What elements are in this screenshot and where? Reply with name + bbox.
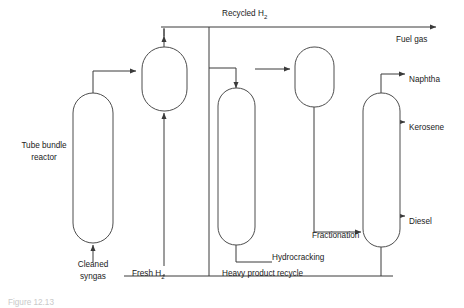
label-recycled-h2: Recycled H2 [222,9,268,19]
pfd-canvas: Tube bundle reactor Cleaned syngas Fresh… [0,0,464,308]
label-tube-bundle-reactor-line2: reactor [31,153,57,162]
label-cleaned-syngas-line2: syngas [80,272,106,281]
hydrocracking-vessel-shell[interactable] [218,88,255,245]
label-fractionation: Fractionation [312,231,360,240]
process-flow-diagram: Tube bundle reactor Cleaned syngas Fresh… [0,0,464,308]
upper-separator-vessel-shell[interactable] [295,47,334,107]
label-tube-bundle-reactor-line1: Tube bundle [21,141,67,150]
label-naphtha: Naphtha [409,75,440,84]
label-fresh-h2: Fresh H2 [132,269,165,279]
stream-hydrocracker-bottom-line [236,245,272,262]
label-cleaned-syngas-line1: Cleaned [78,260,109,269]
label-recycled-h2-text: Recycled H [222,9,264,18]
label-recycled-h2-subscript: 2 [264,13,268,19]
fractionation-column-shell[interactable] [363,93,400,247]
label-fresh-h2-text: Fresh H [132,269,161,278]
label-hydrocracking: Hydrocracking [272,253,325,262]
label-fuel-gas: Fuel gas [396,35,427,44]
label-kerosene: Kerosene [409,123,444,132]
label-heavy-product-recycle: Heavy product recycle [222,269,303,278]
figure-caption: Figure 12.13 [8,298,54,307]
label-diesel: Diesel [409,217,432,226]
stream-upper-separator-to-fractionation-line [314,107,361,232]
stream-reactor-to-separator-line [93,71,136,93]
separator-vessel-shell[interactable] [142,47,187,111]
stream-naphtha-line [381,74,405,93]
tube-bundle-reactor-shell[interactable] [73,93,113,243]
stream-header-to-hydrocracker-line [209,68,236,88]
